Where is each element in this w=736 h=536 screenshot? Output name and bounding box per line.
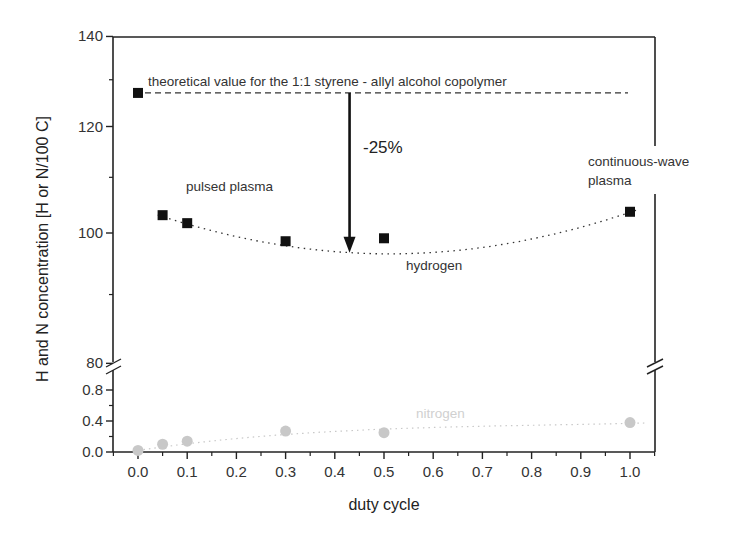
nitrogen-point bbox=[379, 427, 390, 438]
nitrogen-point bbox=[182, 436, 193, 447]
nitrogen-point bbox=[157, 439, 168, 450]
chart-figure: 0.00.10.20.30.40.50.60.70.80.91.08010012… bbox=[0, 0, 736, 536]
nitrogen-fit-curve bbox=[138, 423, 645, 450]
x-tick-label: 0.0 bbox=[128, 463, 149, 480]
nitrogen-point bbox=[625, 417, 636, 428]
x-tick-label: 0.3 bbox=[275, 463, 296, 480]
nitrogen-point bbox=[133, 445, 144, 456]
y-axis-title: H and N concentration [H or N/100 C] bbox=[34, 116, 51, 382]
hydrogen-point bbox=[379, 233, 389, 243]
nitrogen-point bbox=[280, 426, 291, 437]
reduction-label: -25% bbox=[363, 138, 403, 157]
hydrogen-point bbox=[625, 207, 635, 217]
x-tick-label: 0.4 bbox=[324, 463, 345, 480]
y-tick-label: 120 bbox=[78, 118, 103, 135]
hydrogen-point bbox=[133, 88, 143, 98]
reduction-arrow-head bbox=[344, 237, 356, 253]
x-tick-label: 0.6 bbox=[423, 463, 444, 480]
continuous-wave-label-line1: continuous-wave bbox=[588, 154, 689, 169]
x-tick-label: 0.7 bbox=[472, 463, 493, 480]
chart-canvas: 0.00.10.20.30.40.50.60.70.80.91.08010012… bbox=[0, 0, 736, 536]
hydrogen-point bbox=[281, 236, 291, 246]
y-tick-label: 0.0 bbox=[82, 443, 103, 460]
hydrogen-fit-curve bbox=[158, 209, 640, 254]
hydrogen-series-label: hydrogen bbox=[406, 258, 462, 273]
hydrogen-point bbox=[158, 210, 168, 220]
x-tick-label: 0.1 bbox=[177, 463, 198, 480]
x-axis-title: duty cycle bbox=[348, 496, 419, 513]
continuous-wave-label-line2: plasma bbox=[588, 173, 632, 188]
pulsed-plasma-label: pulsed plasma bbox=[186, 179, 274, 194]
y-tick-label: 0.4 bbox=[82, 412, 103, 429]
nitrogen-series-label: nitrogen bbox=[416, 406, 465, 421]
y-tick-label: 140 bbox=[78, 27, 103, 44]
x-tick-label: 0.8 bbox=[521, 463, 542, 480]
x-tick-label: 1.0 bbox=[620, 463, 641, 480]
x-tick-label: 0.9 bbox=[570, 463, 591, 480]
y-tick-label: 100 bbox=[78, 224, 103, 241]
x-tick-label: 0.2 bbox=[226, 463, 247, 480]
annotations: theoretical value for the 1:1 styrene - … bbox=[34, 74, 689, 513]
y-tick-label: 0.8 bbox=[82, 381, 103, 398]
reference-line bbox=[145, 93, 628, 253]
fit-curves bbox=[138, 209, 645, 450]
hydrogen-point bbox=[182, 218, 192, 228]
x-tick-label: 0.5 bbox=[374, 463, 395, 480]
y-tick-label: 80 bbox=[86, 354, 103, 371]
theoretical-value-label: theoretical value for the 1:1 styrene - … bbox=[148, 74, 507, 89]
